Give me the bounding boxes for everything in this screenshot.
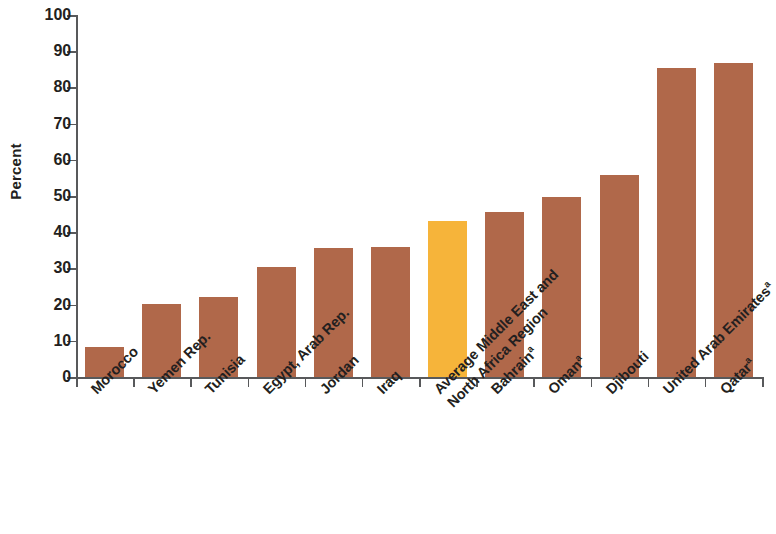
y-axis-tick-label: 80	[53, 78, 71, 96]
bar	[657, 68, 696, 377]
bar	[371, 247, 410, 377]
y-axis-tick-label: 10	[53, 332, 71, 350]
plot-area: 0102030405060708090100	[76, 15, 762, 377]
y-axis-tick-label: 70	[53, 115, 71, 133]
y-axis-tick-label: 30	[53, 259, 71, 277]
y-axis-tick-label: 90	[53, 42, 71, 60]
y-axis-line	[76, 15, 78, 377]
y-axis-tick-label: 40	[53, 223, 71, 241]
y-axis-tick-label: 100	[45, 6, 71, 24]
y-axis-tick-label: 50	[53, 187, 71, 205]
x-axis-labels: MoroccoYemen Rep.TunisiaEgypt, Arab Rep.…	[76, 385, 769, 534]
y-axis-tick-label: 20	[53, 296, 71, 314]
y-axis-tick-label: 60	[53, 151, 71, 169]
y-axis-label: Percent	[7, 127, 24, 217]
bar	[600, 175, 639, 377]
y-axis-tick-label: 0	[62, 368, 71, 386]
